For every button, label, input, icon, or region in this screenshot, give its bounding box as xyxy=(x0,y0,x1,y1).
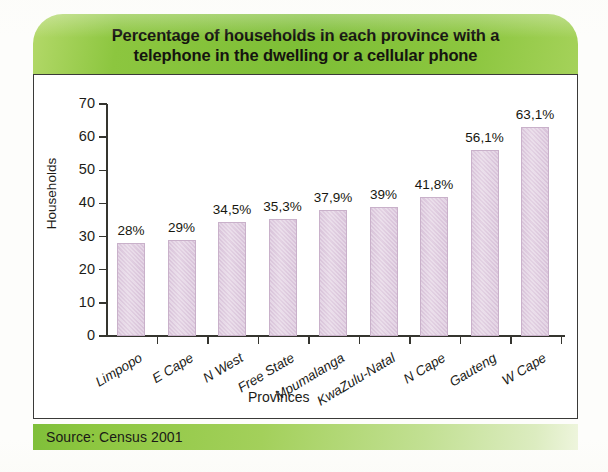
chart-title: Percentage of households in each provinc… xyxy=(84,25,528,65)
y-axis-tick-label: 20 xyxy=(61,261,95,277)
bar[interactable] xyxy=(471,150,499,336)
y-axis-tick xyxy=(99,269,107,270)
y-axis-tick-label: 60 xyxy=(61,128,95,144)
bar[interactable] xyxy=(420,197,448,336)
bar[interactable] xyxy=(370,207,398,336)
x-axis-tick xyxy=(308,336,309,344)
y-axis-tick xyxy=(99,170,107,171)
source-label: Source: Census 2001 xyxy=(33,429,183,445)
y-axis-tick-label: 10 xyxy=(61,294,95,310)
x-axis-tick xyxy=(561,336,562,344)
y-axis-tick xyxy=(99,136,107,137)
y-axis-tick-label: 0 xyxy=(61,327,95,343)
source-banner: Source: Census 2001 xyxy=(33,424,578,450)
bar[interactable] xyxy=(319,210,347,336)
bar-value-label: 56,1% xyxy=(455,130,515,145)
y-axis-tick-label: 30 xyxy=(61,228,95,244)
bar[interactable] xyxy=(218,222,246,336)
y-axis-tick-label: 70 xyxy=(61,95,95,111)
bar[interactable] xyxy=(168,240,196,336)
y-axis-title: Households xyxy=(44,134,59,254)
y-axis-tick-label: 50 xyxy=(61,161,95,177)
bar[interactable] xyxy=(269,219,297,336)
x-axis-tick xyxy=(207,336,208,344)
y-axis-tick xyxy=(99,335,107,336)
bar[interactable] xyxy=(521,127,549,336)
bar-value-label: 63,1% xyxy=(505,107,565,122)
x-axis-tick xyxy=(359,336,360,344)
bar-value-label: 41,8% xyxy=(404,177,464,192)
chart-figure: Percentage of households in each provinc… xyxy=(0,0,608,472)
x-axis-tick xyxy=(157,336,158,344)
x-axis-tick xyxy=(409,336,410,344)
bar[interactable] xyxy=(117,243,145,336)
x-axis-tick xyxy=(258,336,259,344)
y-axis-tick xyxy=(99,203,107,204)
y-axis-tick xyxy=(99,103,107,104)
bar-value-label: 29% xyxy=(152,220,212,235)
x-axis-tick xyxy=(460,336,461,344)
y-axis-tick-label: 40 xyxy=(61,194,95,210)
y-axis-tick xyxy=(99,302,107,303)
title-banner: Percentage of households in each provinc… xyxy=(33,14,578,76)
x-axis-tick xyxy=(510,336,511,344)
